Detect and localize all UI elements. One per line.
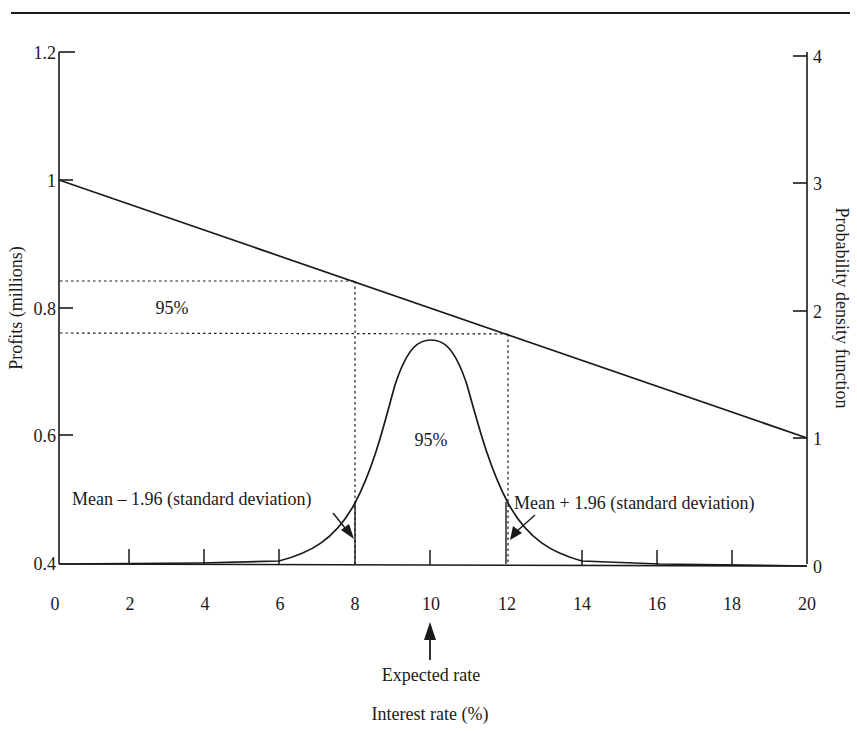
x-tick-label: 16 [648,594,666,614]
lower-bound-label: Mean – 1.96 (standard deviation) [72,489,311,510]
expected-rate-arrow [424,622,436,660]
y-right-tick-label: 3 [813,174,822,194]
y-left-tick-label: 0.4 [34,554,57,574]
area-label: 95% [415,430,448,450]
x-tick-label: 12 [498,594,516,614]
x-tick-label: 2 [126,594,135,614]
y-right-tick-label: 1 [813,429,822,449]
y-right-tick-label: 0 [813,557,822,577]
x-tick-label: 8 [351,594,360,614]
y-left-tick-label: 0.8 [34,299,57,319]
y-right-axis-title: Probability density function [832,208,852,409]
x-tick-label: 20 [798,594,816,614]
y-left-tick-label: 1 [47,171,56,191]
profit-range-label: 95% [156,298,189,318]
chart-canvas: 1.2 1 0.8 0.6 0.4 Profits (millions) 4 3… [0,0,857,731]
y-right-tick-label: 4 [813,47,822,67]
x-tick-label: 4 [201,594,210,614]
x-tick-label: 6 [276,594,285,614]
lower-profit-bound-line [60,333,508,334]
y-left-tick-label: 0.6 [34,426,57,446]
left-y-axis: 1.2 1 0.8 0.6 0.4 Profits (millions) [6,43,75,574]
x-tick-label: 18 [723,594,741,614]
density-curve [59,340,807,566]
x-tick-label: 10 [422,594,440,614]
x-tick-label: 0 [51,594,60,614]
upper-bound-arrow [510,515,535,540]
lower-bound-arrow [333,513,354,539]
x-axis-title: Interest rate (%) [372,704,489,725]
y-left-tick-label: 1.2 [34,43,57,63]
expected-rate-label: Expected rate [382,665,480,685]
upper-bound-label: Mean + 1.96 (standard deviation) [514,493,755,514]
reference-lines [60,281,508,564]
y-left-axis-title: Profits (millions) [6,246,27,370]
right-y-axis: 4 3 2 1 0 Probability density function [793,47,852,577]
x-tick-label: 14 [573,594,591,614]
y-right-tick-label: 2 [813,302,822,322]
